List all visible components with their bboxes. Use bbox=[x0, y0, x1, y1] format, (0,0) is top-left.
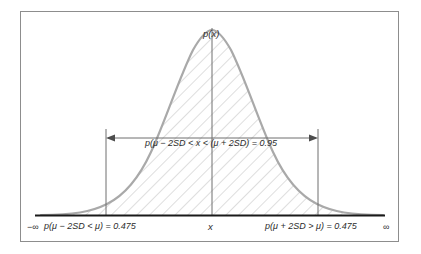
axis-right-infinity-label: ∞ bbox=[383, 222, 389, 232]
hatched-area bbox=[21, 12, 398, 241]
axis-left-infinity-label: −∞ bbox=[27, 222, 39, 232]
curve-label: p(x) bbox=[203, 28, 219, 39]
left-area-probability-label: p(μ − 2SD < μ) = 0.475 bbox=[44, 221, 136, 231]
interval-probability-label: p(μ − 2SD < x < (μ + 2SD) = 0.95 bbox=[145, 138, 277, 148]
right-area-probability-label: p(μ + 2SD > μ) = 0.475 bbox=[265, 221, 357, 231]
figure-frame: p(x) bbox=[20, 11, 399, 242]
normal-distribution-plot bbox=[21, 12, 398, 241]
figure-canvas: p(x) p(μ − 2SD < x < (μ + 2SD) = 0.95 −∞… bbox=[0, 0, 421, 254]
axis-center-x-label: x bbox=[208, 221, 213, 232]
